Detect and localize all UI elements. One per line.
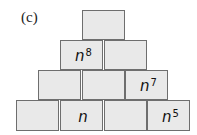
pyramid-cell-r0-c0 <box>82 10 125 40</box>
pyramid-cell-r1-c1 <box>104 40 147 70</box>
cell-exponent: 7 <box>151 77 157 88</box>
cell-base: n <box>162 108 172 126</box>
part-label: (c) <box>21 9 38 26</box>
pyramid-cell-r2-c1 <box>82 70 125 100</box>
pyramid-cell-r3-c2 <box>104 100 147 131</box>
cell-exponent: 8 <box>86 47 92 58</box>
pyramid-cell-r3-c0 <box>16 100 59 131</box>
pyramid-cell-r3-c3: n5 <box>147 100 190 131</box>
pyramid-cell-r2-c0 <box>38 70 81 100</box>
cell-base: n <box>140 77 150 95</box>
cell-base: n <box>78 108 88 126</box>
cell-exponent: 5 <box>173 108 179 119</box>
pyramid-cell-r2-c2: n7 <box>125 70 168 100</box>
cell-base: n <box>75 47 85 65</box>
pyramid-cell-r1-c0: n8 <box>60 40 103 70</box>
pyramid-cell-r3-c1: n <box>60 100 103 131</box>
